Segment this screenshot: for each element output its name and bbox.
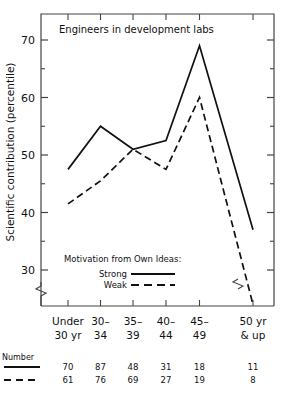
- number-cell: 61: [63, 375, 74, 385]
- number-cell: 19: [194, 375, 205, 385]
- legend-label-weak: Weak: [104, 280, 127, 290]
- y-tick-label: 50: [21, 149, 35, 162]
- x-category-label: 35–: [124, 315, 143, 327]
- number-cell: 18: [194, 362, 205, 372]
- top-axis-ticks: [68, 14, 253, 20]
- x-category-label-line2: 30 yr: [54, 329, 82, 341]
- series-group: [68, 46, 253, 305]
- legend: Motivation from Own Ideas:StrongWeak: [64, 254, 181, 290]
- x-axis-ticks: [68, 300, 253, 306]
- number-table: Number70874831181161766927198: [2, 353, 258, 385]
- chart-svg: 3040506070Engineers in development labsS…: [0, 0, 285, 394]
- x-category-label: 40–: [157, 315, 176, 327]
- legend-label-strong: Strong: [99, 269, 127, 279]
- x-category-label: 45–: [190, 315, 209, 327]
- number-cell: 69: [128, 375, 139, 385]
- series-line-strong: [68, 46, 253, 230]
- x-category-label-line2: 49: [193, 329, 206, 341]
- number-cell: 27: [161, 375, 172, 385]
- x-category-label: 30–: [91, 315, 110, 327]
- x-category-label: Under: [52, 315, 84, 327]
- x-category-label: 50 yr: [239, 315, 267, 327]
- x-category-label-line2: & up: [241, 329, 266, 341]
- number-cell: 11: [248, 362, 259, 372]
- x-category-label-line2: 34: [94, 329, 108, 341]
- number-cell: 87: [95, 362, 106, 372]
- number-cell: 76: [95, 375, 106, 385]
- y-tick-label: 70: [21, 34, 35, 47]
- chart-figure: 3040506070Engineers in development labsS…: [0, 0, 285, 394]
- x-category-label-line2: 39: [126, 329, 139, 341]
- y-tick-label: 60: [21, 92, 35, 105]
- series-break-icon: [233, 279, 243, 289]
- legend-heading: Motivation from Own Ideas:: [64, 254, 181, 264]
- number-cell: 70: [63, 362, 74, 372]
- x-category-labels: Under30 yr30–3435–3940–4445–4950 yr& up: [52, 315, 267, 341]
- number-cell: 31: [161, 362, 172, 372]
- y-axis-title: Scientific contribution (percentile): [4, 63, 16, 242]
- y-axis-ticks: 3040506070: [21, 34, 274, 277]
- number-cell: 8: [250, 375, 255, 385]
- chart-title: Engineers in development labs: [59, 24, 214, 35]
- axis-break-group: [36, 279, 243, 306]
- number-table-label: Number: [2, 353, 35, 362]
- number-cell: 48: [128, 362, 139, 372]
- x-category-label-line2: 44: [159, 329, 173, 341]
- y-tick-label: 40: [21, 207, 35, 220]
- y-tick-label: 30: [21, 264, 35, 277]
